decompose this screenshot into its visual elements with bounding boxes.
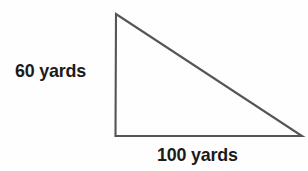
vertical-leg-label: 60 yards (15, 61, 86, 80)
triangle-shape (0, 0, 308, 171)
horizontal-leg-label: 100 yards (157, 145, 238, 164)
right-triangle-figure: 60 yards 100 yards (0, 0, 308, 171)
triangle-outline (116, 14, 303, 136)
